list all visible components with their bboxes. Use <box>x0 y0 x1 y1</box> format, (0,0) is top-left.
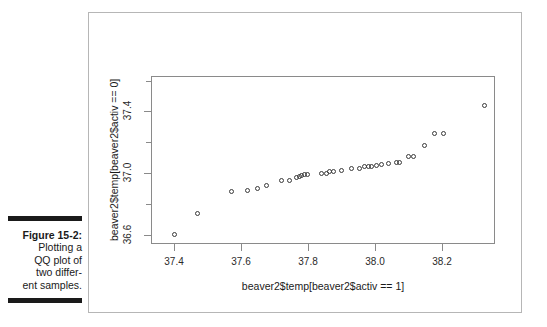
plot-box <box>151 76 495 244</box>
y-axis-tick <box>146 81 151 82</box>
caption-rule-bottom <box>8 298 82 303</box>
scatter-plot: 36.637.037.4 37.437.637.838.038.2 beaver… <box>89 13 523 314</box>
x-axis-tick <box>174 244 175 251</box>
data-point <box>264 183 269 188</box>
y-axis-tick-label: 37.0 <box>122 156 133 190</box>
x-axis-tick-label: 38.2 <box>422 256 462 267</box>
x-axis-tick-label: 37.8 <box>288 256 328 267</box>
y-axis-title: beaver2$temp[beaver2$activ == 0] <box>108 79 120 241</box>
x-axis-title: beaver2$temp[beaver2$activ == 1] <box>151 280 495 292</box>
figure-caption-block: Figure 15-2: Plotting a QQ plot of two d… <box>8 216 82 303</box>
y-axis-tick-label: 37.4 <box>122 94 133 128</box>
caption-rule-top <box>8 216 82 221</box>
figure-caption-body: Plotting a QQ plot of two differ- ent sa… <box>8 241 82 291</box>
x-axis-tick <box>442 244 443 251</box>
x-axis-tick <box>308 244 309 251</box>
data-point <box>245 188 250 193</box>
data-point <box>441 131 446 136</box>
data-point <box>195 211 200 216</box>
y-axis-tick-label: 36.6 <box>122 218 133 252</box>
y-axis-tick <box>144 173 151 174</box>
figure-caption-label: Figure 15-2: <box>8 229 82 241</box>
data-point <box>229 189 234 194</box>
figure-caption-text: Figure 15-2: Plotting a QQ plot of two d… <box>8 229 82 291</box>
data-point <box>339 168 344 173</box>
y-axis-tick <box>146 204 151 205</box>
x-axis-tick-label: 37.6 <box>221 256 261 267</box>
data-point <box>331 169 336 174</box>
x-axis-tick-label: 38.0 <box>355 256 395 267</box>
data-point <box>406 154 411 159</box>
x-axis-tick <box>241 244 242 251</box>
data-point <box>349 166 354 171</box>
y-axis-tick <box>146 142 151 143</box>
y-axis-tick <box>144 111 151 112</box>
x-axis-tick <box>375 244 376 251</box>
y-axis-tick <box>144 235 151 236</box>
data-point <box>432 131 437 136</box>
x-axis-tick-label: 37.4 <box>154 256 194 267</box>
data-point <box>411 154 416 159</box>
figure-frame: 36.637.037.4 37.437.637.838.038.2 beaver… <box>88 12 522 313</box>
